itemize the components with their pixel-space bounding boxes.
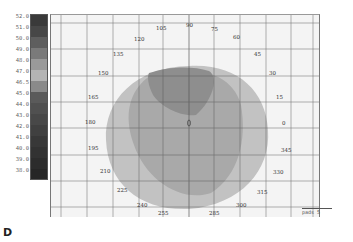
scale-legend: pads 5 [302,208,332,217]
svg-text:0: 0 [282,120,286,126]
colorbar-tick: 47.0 [16,68,29,74]
colorbar-tick: 38.0 [16,167,29,173]
svg-text:345: 345 [281,147,292,153]
svg-text:315: 315 [257,189,268,195]
svg-text:300: 300 [236,202,247,208]
svg-text:240: 240 [137,202,148,208]
colorbar-tick: 46.5 [16,79,29,85]
colorbar-tick: 48.0 [16,57,29,63]
svg-text:90: 90 [186,22,193,28]
colorbar-tick: 51.0 [16,24,29,30]
svg-text:45: 45 [254,51,261,57]
panel-label: D [3,226,12,239]
svg-text:330: 330 [273,169,284,175]
svg-text:30: 30 [269,70,276,76]
svg-text:120: 120 [134,36,145,42]
svg-text:210: 210 [100,168,111,174]
svg-text:225: 225 [117,187,128,193]
scale-text: pads 5 [302,209,320,215]
svg-text:255: 255 [158,210,169,216]
colorbar-tick: 49.0 [16,46,29,52]
svg-text:180: 180 [85,119,96,125]
svg-text:15: 15 [276,94,283,100]
chart-figure: 52.0 51.0 50.0 49.0 48.0 47.0 46.5 45.0 … [0,0,353,242]
colorbar [30,14,48,180]
colorbar-tick: 52.0 [16,13,29,19]
svg-text:60: 60 [233,34,240,40]
colorbar-tick: 45.0 [16,90,29,96]
svg-text:150: 150 [98,70,109,76]
svg-text:135: 135 [113,51,124,57]
svg-text:75: 75 [211,26,218,32]
colorbar-tick: 43.0 [16,112,29,118]
polar-contour-plot: 90 75 60 45 30 15 0 345 330 315 300 285 … [50,14,320,217]
colorbar-tick: 42.0 [16,123,29,129]
svg-text:165: 165 [88,94,99,100]
colorbar-tick: 40.0 [16,145,29,151]
colorbar-tick: 39.0 [16,156,29,162]
svg-text:105: 105 [156,25,167,31]
svg-text:285: 285 [209,210,220,216]
colorbar-tick: 44.0 [16,101,29,107]
colorbar-tick: 41.0 [16,134,29,140]
colorbar-labels: 52.0 51.0 50.0 49.0 48.0 47.0 46.5 45.0 … [3,13,29,178]
svg-text:195: 195 [88,145,99,151]
colorbar-tick: 50.0 [16,35,29,41]
plot-svg: 90 75 60 45 30 15 0 345 330 315 300 285 … [51,15,319,217]
